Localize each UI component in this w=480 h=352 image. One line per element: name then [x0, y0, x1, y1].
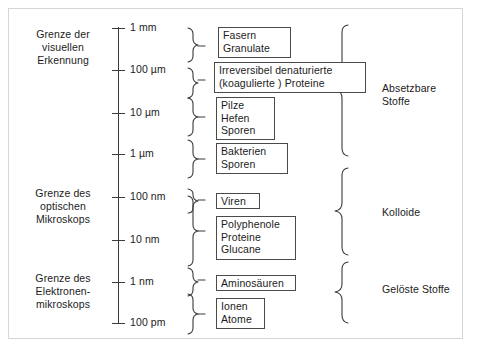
- scale-axis-line: [118, 27, 119, 324]
- item-box-polyphenole[interactable]: Polyphenole Proteine Glucane: [216, 216, 296, 260]
- category-label-kolloide: Kolloide: [382, 206, 462, 219]
- category-label-geloeste-stoffe: Gelöste Stoffe: [382, 283, 468, 296]
- diagram-canvas: Grenze der visuellen Erkennung Grenze de…: [0, 0, 480, 352]
- axis-label-1nm: 1 nm: [130, 276, 154, 287]
- category-label-absetzbare-stoffe: Absetzbare Stoffe: [382, 82, 462, 108]
- axis-tick-1um: [112, 154, 125, 155]
- left-annotation-electron: Grenze des Elektronen- mikroskops: [14, 272, 112, 311]
- axis-tick-1nm: [112, 282, 125, 283]
- axis-label-100um: 100 µm: [130, 64, 166, 75]
- axis-label-1um: 1 µm: [130, 148, 154, 159]
- item-box-ionen[interactable]: Ionen Atome: [216, 298, 265, 329]
- axis-label-100pm: 100 pm: [130, 317, 166, 328]
- item-box-fasern[interactable]: Fasern Granulate: [218, 27, 291, 58]
- axis-label-10nm: 10 nm: [130, 234, 160, 245]
- item-box-viren[interactable]: Viren: [216, 193, 260, 209]
- item-box-proteine-denaturiert[interactable]: Irreversibel denaturierte (koagulierte )…: [214, 62, 366, 93]
- axis-tick-1mm: [112, 28, 125, 29]
- item-box-pilze[interactable]: Pilze Hefen Sporen: [216, 97, 275, 140]
- axis-tick-100um: [112, 70, 125, 71]
- axis-label-100nm: 100 nm: [130, 191, 166, 202]
- axis-tick-100nm: [112, 197, 125, 198]
- left-annotation-visual: Grenze der visuellen Erkennung: [14, 28, 112, 67]
- axis-tick-10nm: [112, 240, 125, 241]
- left-annotation-optical: Grenze des optischen Mikroskops: [14, 187, 112, 226]
- axis-tick-10um: [112, 113, 125, 114]
- axis-label-1mm: 1 mm: [130, 22, 157, 33]
- item-box-bakterien[interactable]: Bakterien Sporen: [216, 143, 288, 174]
- axis-tick-100pm: [112, 323, 125, 324]
- item-box-aminosaeuren[interactable]: Aminosäuren: [216, 275, 296, 291]
- axis-label-10um: 10 µm: [130, 107, 160, 118]
